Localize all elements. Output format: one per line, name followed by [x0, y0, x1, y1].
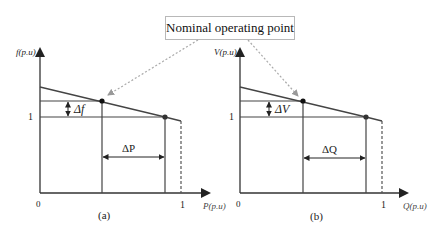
delta-v-label: ΔV	[274, 102, 291, 116]
x-axis-label: P(p.u)	[202, 201, 226, 211]
callout-leaders	[108, 40, 298, 96]
origin-label: 0	[236, 199, 241, 209]
callout-leader-a	[108, 40, 198, 95]
diagram-b: V(p.u) 1 0 1 Q(p.u) ΔV ΔQ (b)	[214, 47, 427, 223]
caption-a: (a)	[98, 209, 111, 222]
x-axis-label: Q(p.u)	[403, 201, 427, 211]
x-tick-one: 1	[381, 199, 386, 210]
operating-point-marker	[99, 98, 104, 103]
origin-label: 0	[36, 199, 41, 209]
operating-point-marker	[300, 98, 305, 103]
y-axis-label: V(p.u)	[214, 47, 237, 57]
droop-line	[40, 87, 181, 121]
max-point-marker	[363, 114, 368, 119]
delta-q-label: ΔQ	[322, 143, 337, 155]
max-point-marker	[162, 114, 167, 119]
diagram-a: f(p.u) 1 0 1 P(p.u) Δf ΔP (a)	[16, 47, 226, 222]
y-tick-one: 1	[28, 111, 33, 122]
droop-line	[240, 87, 382, 121]
y-tick-one: 1	[229, 111, 234, 122]
callout-leader-b	[248, 40, 298, 96]
caption-b: (b)	[310, 210, 323, 223]
y-axis-label: f(p.u)	[16, 47, 36, 57]
delta-f-label: Δf	[73, 102, 86, 116]
delta-p-label: ΔP	[122, 142, 135, 154]
x-tick-one: 1	[180, 199, 185, 210]
